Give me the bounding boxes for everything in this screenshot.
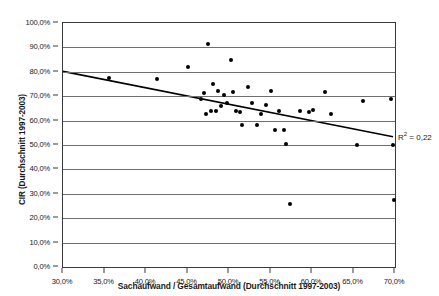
gridline <box>63 96 395 97</box>
y-tick-label: 30,0% <box>29 188 50 197</box>
x-tick-mark <box>145 268 146 273</box>
data-point <box>329 112 333 116</box>
y-tick-mark <box>53 168 58 169</box>
data-point <box>204 112 208 116</box>
data-point <box>238 110 242 114</box>
x-tick-mark <box>352 268 353 273</box>
data-point <box>361 99 365 103</box>
data-point <box>209 109 213 113</box>
data-point <box>216 89 220 93</box>
y-tick-label: 90,0% <box>29 42 50 51</box>
y-axis-labels: 0,0%10,0%20,0%30,0%40,0%50,0%60,0%70,0%8… <box>0 22 58 268</box>
data-point <box>389 97 393 101</box>
data-point <box>231 90 235 94</box>
data-point <box>211 82 215 86</box>
x-tick-mark <box>228 268 229 273</box>
y-tick-mark <box>53 217 58 218</box>
x-tick-mark <box>186 268 187 273</box>
y-tick-label: 80,0% <box>29 66 50 75</box>
data-point <box>282 128 286 132</box>
data-point <box>269 89 273 93</box>
x-tick-mark <box>103 268 104 273</box>
x-tick-mark <box>311 268 312 273</box>
data-point <box>288 202 292 206</box>
data-point <box>202 91 206 95</box>
y-tick-label: 10,0% <box>29 237 50 246</box>
gridline <box>63 121 395 122</box>
data-point <box>323 90 327 94</box>
y-tick-mark <box>53 22 58 23</box>
gridline <box>63 72 395 73</box>
data-point <box>199 97 203 101</box>
y-tick-mark <box>53 119 58 120</box>
data-point <box>225 101 229 105</box>
data-point <box>392 198 396 202</box>
x-tick-mark <box>62 268 63 273</box>
gridline <box>63 218 395 219</box>
data-point <box>186 65 190 69</box>
plot-area <box>62 22 396 268</box>
data-point <box>264 103 268 107</box>
data-point <box>391 143 395 147</box>
y-tick-label: 60,0% <box>29 115 50 124</box>
y-tick-mark <box>53 70 58 71</box>
data-point <box>259 112 263 116</box>
scatter-chart: CIR (Durchschnitt 1997-2003) 0,0%10,0%20… <box>0 0 439 296</box>
y-tick-label: 50,0% <box>29 140 50 149</box>
data-point <box>255 123 259 127</box>
y-tick-label: 20,0% <box>29 213 50 222</box>
y-tick-label: 70,0% <box>29 91 50 100</box>
y-tick-mark <box>53 95 58 96</box>
gridline <box>63 169 395 170</box>
gridline <box>63 243 395 244</box>
data-point <box>214 109 218 113</box>
gridline <box>63 194 395 195</box>
data-point <box>355 143 359 147</box>
data-point <box>250 101 254 105</box>
data-point <box>219 104 223 108</box>
y-tick-label: 40,0% <box>29 164 50 173</box>
r-squared-annotation: R2 = 0,22 <box>398 131 432 142</box>
y-tick-mark <box>53 266 58 267</box>
y-tick-label: 100,0% <box>25 18 50 27</box>
y-tick-mark <box>53 241 58 242</box>
data-point <box>240 123 244 127</box>
x-tick-mark <box>269 268 270 273</box>
y-tick-label: 0,0% <box>33 262 50 271</box>
data-point <box>222 93 226 97</box>
data-point <box>155 77 159 81</box>
data-point <box>246 85 250 89</box>
y-tick-mark <box>53 192 58 193</box>
y-tick-mark <box>53 144 58 145</box>
data-point <box>273 128 277 132</box>
data-point <box>277 109 281 113</box>
data-point <box>284 142 288 146</box>
y-tick-mark <box>53 46 58 47</box>
data-point <box>311 108 315 112</box>
gridline <box>63 47 395 48</box>
x-tick-mark <box>394 268 395 273</box>
data-point <box>206 42 210 46</box>
gridline <box>63 145 395 146</box>
data-point <box>229 58 233 62</box>
data-point <box>298 109 302 113</box>
x-axis-title: Sachaufwand / Gesamtaufwand (Durchschnit… <box>62 281 396 291</box>
data-point <box>107 76 111 80</box>
